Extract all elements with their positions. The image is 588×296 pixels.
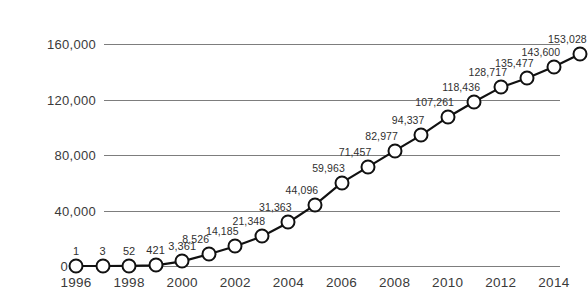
data-point-marker [69,258,84,273]
data-point-marker [122,258,137,273]
data-point-marker [148,258,163,273]
data-point-label: 94,337 [392,114,425,126]
data-point-label: 153,028 [548,33,587,45]
data-point-marker [414,128,429,143]
data-point-marker [520,71,535,86]
data-point-marker [467,94,482,109]
data-point-label: 421 [146,244,165,256]
data-point-label: 52 [123,245,135,257]
data-point-marker [546,59,561,74]
data-point-marker [307,197,322,212]
data-point-label: 118,436 [442,81,480,93]
data-point-marker [95,258,110,273]
data-point-label: 21,348 [232,215,265,227]
data-point-marker [228,239,243,254]
data-point-marker [175,254,190,269]
data-point-label: 82,977 [365,130,398,142]
data-point-label: 1 [73,245,79,257]
data-point-label: 135,477 [495,57,534,69]
data-point-label: 107,261 [415,96,454,108]
data-point-label: 31,363 [259,201,292,213]
data-point-marker [387,143,402,158]
data-point-marker [334,175,349,190]
data-point-label: 44,096 [286,184,319,196]
data-point-marker [361,159,376,174]
data-point-marker [281,215,296,230]
data-point-label: 3 [99,245,105,257]
data-point-marker [201,247,216,262]
data-point-marker [440,110,455,125]
data-point-marker [573,46,588,61]
data-point-marker [493,80,508,95]
data-point-marker [254,229,269,244]
data-point-label: 71,457 [339,146,372,158]
data-point-label: 59,963 [312,162,345,174]
data-point-label: 143,600 [522,46,561,58]
